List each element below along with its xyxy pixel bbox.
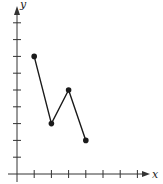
data-point-marker xyxy=(31,54,37,60)
data-series xyxy=(31,54,88,144)
axes xyxy=(8,6,150,182)
line-chart: x y xyxy=(0,0,163,184)
y-axis-label: y xyxy=(19,0,27,11)
data-point-marker xyxy=(66,87,72,93)
tick-marks xyxy=(13,23,137,178)
series-line xyxy=(34,56,86,140)
x-axis-label: x xyxy=(152,168,159,181)
data-point-marker xyxy=(83,138,89,144)
x-axis-arrow-icon xyxy=(142,171,150,177)
data-point-marker xyxy=(49,121,55,127)
